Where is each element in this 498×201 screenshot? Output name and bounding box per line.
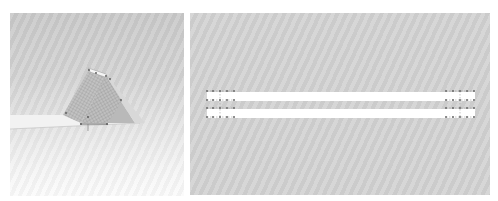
bar-top: [207, 92, 475, 101]
a-frame-render: [10, 13, 184, 196]
bar-bottom: [207, 109, 475, 118]
bars-plan-render: [190, 13, 490, 195]
plan-view-panel: [190, 13, 490, 195]
perspective-view-panel: [10, 13, 184, 196]
